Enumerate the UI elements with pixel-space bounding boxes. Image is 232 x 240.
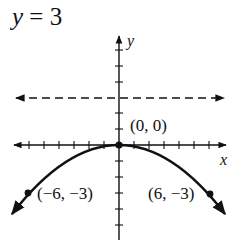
vertex-label: (0, 0) [130,116,167,135]
left-point [25,190,32,197]
parabola-graph: y x (0, 0) (−6, −3) (6, −3) [0,0,232,240]
right-point [207,191,214,198]
right-point-label: (6, −3) [148,184,194,203]
left-point-label: (−6, −3) [37,184,93,203]
x-axis-label: x [219,151,227,168]
y-axis-label: y [125,32,135,50]
vertex-point [115,141,122,148]
